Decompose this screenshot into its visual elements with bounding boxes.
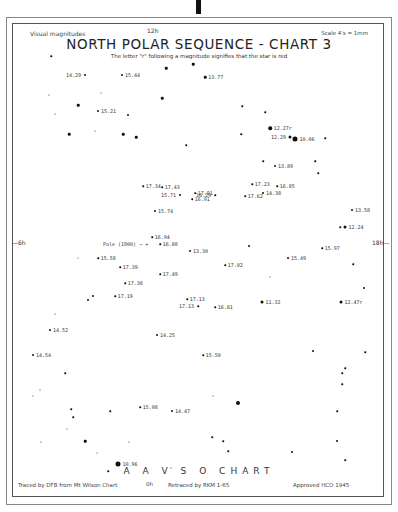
ra-bottom-label: 0h: [146, 481, 153, 487]
star-icon: [97, 257, 99, 259]
magnitude-label: 15.08: [143, 404, 158, 410]
magnitude-label: 14.25: [160, 332, 175, 338]
star-icon: [129, 442, 130, 443]
star-icon: [364, 351, 366, 353]
top-marker: [196, 0, 201, 14]
star-icon: [33, 396, 34, 397]
star-icon: [236, 401, 240, 405]
star-icon: [72, 416, 74, 418]
star-icon: [159, 243, 161, 245]
magnitude-label: 12.29: [271, 134, 286, 140]
star-icon: [49, 329, 51, 331]
star-icon: [139, 406, 141, 408]
star-icon: [251, 183, 253, 185]
magnitude-label: 17.38: [128, 280, 143, 286]
magnitude-label: 15.44: [125, 72, 140, 78]
star-icon: [165, 67, 168, 70]
magnitude-label: 17.13: [179, 303, 194, 309]
star-icon: [50, 55, 52, 57]
star-icon: [248, 245, 250, 247]
ra-right-label: 18h—: [372, 239, 389, 246]
star-icon: [336, 440, 338, 442]
magnitude-label: 13.58: [355, 207, 370, 213]
star-icon: [92, 295, 94, 297]
star-icon: [336, 410, 338, 412]
star-icon: [344, 367, 346, 369]
star-icon: [179, 194, 181, 196]
magnitude-label: 13.89: [278, 163, 293, 169]
traced-by-note: Traced by DFB from Mt Wilson Chart: [18, 482, 117, 488]
star-icon: [352, 263, 354, 265]
star-icon: [287, 257, 289, 259]
magnitude-label: 14.47: [175, 408, 190, 414]
magnitude-label: 15.58: [101, 255, 116, 261]
star-icon: [244, 195, 246, 197]
star-icon: [214, 194, 216, 196]
chart-subtitle: The letter "r" following a magnitude sig…: [0, 53, 398, 59]
star-icon: [341, 372, 343, 374]
star-icon: [109, 410, 111, 412]
magnitude-label: 17.02: [228, 262, 243, 268]
star-icon: [97, 110, 99, 112]
magnitude-label: 17.39: [123, 264, 138, 270]
magnitude-label: 15.50: [206, 352, 221, 358]
magnitude-label: 14.52: [53, 327, 68, 333]
star-icon: [197, 305, 199, 307]
star-icon: [156, 334, 158, 336]
magnitude-label: 10.06: [300, 136, 315, 142]
pole-label: Pole (1900) → +: [103, 241, 148, 247]
star-icon: [124, 282, 126, 284]
star-icon: [97, 453, 98, 454]
star-icon: [127, 114, 129, 116]
magnitude-label: 12.24: [349, 224, 364, 230]
star-icon: [293, 137, 298, 142]
star-icon: [351, 209, 353, 211]
magnitude-label: 17.43: [165, 184, 180, 190]
star-icon: [161, 97, 164, 100]
chart-title: NORTH POLAR SEQUENCE - CHART 3: [0, 36, 398, 52]
magnitude-label: 11.32: [266, 299, 281, 305]
star-icon: [119, 266, 121, 268]
star-icon: [204, 76, 207, 79]
magnitude-label: 15.97: [325, 245, 340, 251]
star-icon: [213, 396, 214, 397]
star-icon: [101, 93, 102, 94]
ra-left-label: —6h: [12, 239, 26, 246]
star-icon: [70, 408, 72, 410]
star-icon: [321, 247, 323, 249]
star-icon: [317, 172, 319, 174]
magnitude-label: 17.62: [248, 193, 263, 199]
star-icon: [154, 210, 156, 212]
star-icon: [211, 436, 213, 438]
magnitude-label: 15.21: [101, 108, 116, 114]
star-icon: [341, 383, 343, 385]
star-icon: [214, 306, 216, 308]
star-icon: [262, 192, 264, 194]
star-icon: [49, 95, 50, 96]
star-icon: [268, 126, 272, 130]
magnitude-label: 17.13: [190, 296, 205, 302]
magnitude-label: 16.94: [155, 234, 170, 240]
star-icon: [189, 250, 191, 252]
star-icon: [151, 236, 153, 238]
magnitude-label: 13.77: [208, 74, 223, 80]
star-icon: [264, 111, 266, 113]
star-icon: [77, 104, 80, 107]
magnitude-label: 15.71: [161, 192, 176, 198]
star-icon: [274, 165, 276, 167]
magnitude-label: 14.29: [66, 72, 81, 78]
star-icon: [344, 226, 347, 229]
star-icon: [114, 295, 116, 297]
magnitude-label: 17.34: [146, 183, 161, 189]
star-icon: [227, 450, 229, 452]
star-icon: [84, 74, 86, 76]
magnitude-label: 16.29: [196, 192, 211, 198]
ra-top-label: 12h: [147, 27, 158, 34]
star-icon: [161, 186, 163, 188]
magnitude-label: 17.49: [163, 271, 178, 277]
star-icon: [339, 226, 341, 228]
magnitude-label: 17.23: [255, 181, 270, 187]
star-icon: [95, 131, 96, 132]
magnitude-label: 16.80: [163, 241, 178, 247]
star-icon: [224, 264, 226, 266]
